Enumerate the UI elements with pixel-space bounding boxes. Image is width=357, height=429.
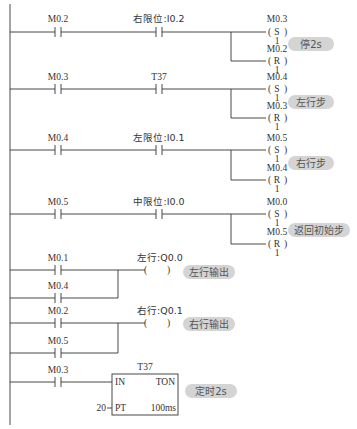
timer-pt-label: PT (115, 403, 126, 413)
timer-in-label: IN (115, 377, 125, 387)
contact-label: M0.1 (48, 253, 69, 263)
contact-label: M0.5 (48, 197, 69, 207)
timer-base: 100ms (151, 403, 177, 413)
coil-open: ( (144, 318, 147, 329)
rung-6: M0.2 M0.5 右行:Q0.1 ( ) 右行输出 (10, 305, 235, 358)
timer-name: T37 (137, 362, 153, 372)
coil-address: M0.2 (267, 44, 288, 54)
coil-open: ( (144, 265, 147, 276)
svg-text:(: ( (268, 27, 271, 38)
coil-address: M0.4 (267, 72, 288, 82)
contact-label: 右限位:I0.2 (133, 13, 184, 24)
annotation-text: 右行步 (296, 157, 326, 169)
coil-count: 1 (275, 184, 280, 194)
svg-text:): ) (284, 113, 287, 124)
coil-close: ) (167, 318, 170, 329)
svg-text:): ) (284, 56, 287, 67)
contact-no (55, 27, 61, 37)
contact-label: 中限位:I0.0 (133, 196, 184, 207)
svg-text:(: ( (268, 84, 271, 95)
coil-address: M0.0 (267, 197, 288, 207)
ladder-diagram: M0.2 右限位:I0.2 M0.3 () S 1 M0.2 () R 1 停2… (0, 0, 357, 429)
rung-7: M0.3 T37 IN TON PT 100ms 20 定时2s (10, 362, 237, 415)
contact-label: M0.3 (48, 365, 69, 375)
coil-close: ) (167, 265, 170, 276)
coil-count: 1 (275, 122, 280, 132)
rung-1: M0.2 右限位:I0.2 M0.3 () S 1 M0.2 () R 1 停2… (10, 13, 334, 75)
contact-label: 左限位:I0.1 (133, 132, 184, 143)
svg-text:): ) (284, 84, 287, 95)
rung-4: M0.5 中限位:I0.0 M0.0 () S 1 M0.5 () R 1 返回… (10, 196, 350, 258)
svg-text:(: ( (268, 209, 271, 220)
timer-type: TON (156, 377, 175, 387)
coil-address: M0.3 (267, 14, 288, 24)
coil-label: 右行:Q0.1 (137, 305, 183, 316)
contact-label: M0.4 (48, 133, 69, 143)
annotation-text: 右行输出 (189, 318, 229, 330)
annotation-text: 返回初始步 (294, 224, 344, 236)
svg-text:): ) (284, 27, 287, 38)
contact-label: M0.3 (48, 72, 69, 82)
rung-2: M0.3 T37 M0.4 () S 1 M0.3 () R 1 左行步 (10, 72, 334, 132)
svg-text:): ) (284, 175, 287, 186)
contact-label: T37 (151, 72, 167, 82)
timer-pt-value: 20 (97, 403, 107, 413)
annotation-text: 定时2s (195, 385, 227, 397)
svg-text:(: ( (268, 56, 271, 67)
contact-label: M0.5 (48, 336, 69, 346)
coil-address: M0.3 (267, 101, 288, 111)
contact-label: M0.2 (48, 306, 69, 316)
coil-label: 左行:Q0.0 (137, 252, 183, 263)
svg-text:): ) (284, 209, 287, 220)
coil-address: M0.5 (267, 227, 288, 237)
svg-text:(: ( (268, 239, 271, 250)
svg-text:(: ( (268, 145, 271, 156)
annotation-text: 左行输出 (189, 266, 229, 278)
coil-count: 1 (275, 248, 280, 258)
annotation-text: 左行步 (296, 96, 326, 108)
contact-label: M0.4 (48, 281, 69, 291)
contact-label: M0.2 (48, 14, 69, 24)
svg-text:(: ( (268, 175, 271, 186)
coil-address: M0.4 (267, 163, 288, 173)
rung-3: M0.4 左限位:I0.1 M0.5 () S 1 M0.4 () R 1 右行… (10, 132, 334, 194)
svg-text:): ) (284, 145, 287, 156)
annotation-text: 停2s (300, 38, 322, 50)
coil-address: M0.5 (267, 133, 288, 143)
svg-text:(: ( (268, 113, 271, 124)
svg-text:): ) (284, 239, 287, 250)
contact-no (156, 27, 162, 37)
rung-5: M0.1 M0.4 左行:Q0.0 ( ) 左行输出 (10, 252, 235, 303)
